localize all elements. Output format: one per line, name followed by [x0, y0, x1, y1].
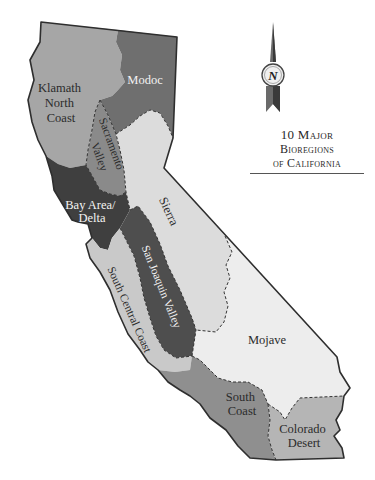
- label-mojave: Mojave: [248, 333, 287, 347]
- compass-n-label: N: [267, 68, 278, 83]
- title-line-2: Bioregions: [246, 142, 368, 156]
- map-title: 10 Major Bioregions of California: [246, 128, 368, 174]
- title-underline: [250, 173, 364, 174]
- label-south-coast: South Coast: [226, 390, 258, 418]
- title-line-1: 10 Major: [246, 128, 368, 142]
- title-line-3: of California: [246, 156, 368, 170]
- california-bioregions-map: Klamath North Coast Modoc Sacramento Val…: [0, 0, 375, 480]
- north-arrow-icon: N: [262, 22, 284, 112]
- label-modoc: Modoc: [127, 73, 163, 87]
